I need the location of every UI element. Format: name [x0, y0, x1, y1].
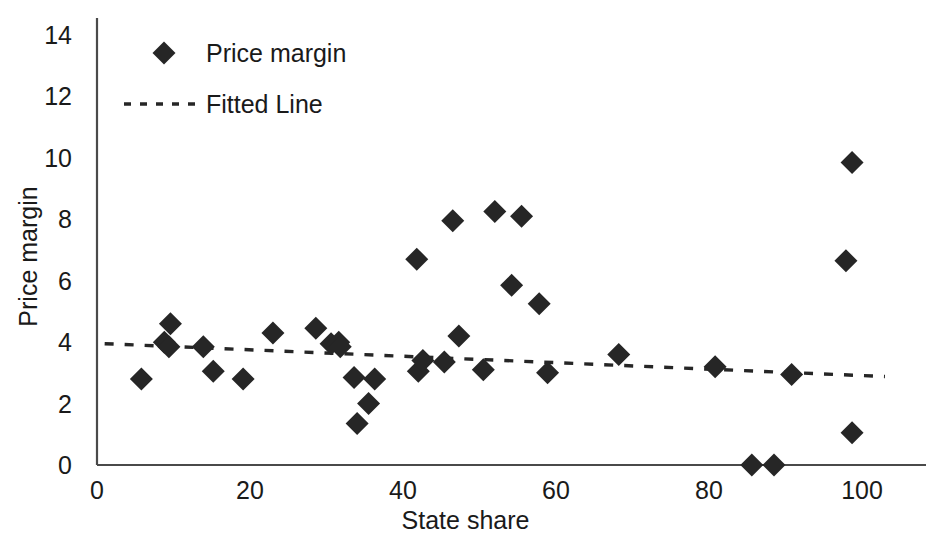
x-tick-label: 40: [389, 478, 417, 503]
data-point-marker: [841, 421, 864, 444]
legend-item-fitted-line: Fitted Line: [206, 92, 323, 117]
data-point-marker: [500, 274, 523, 297]
data-point-marker: [528, 292, 551, 315]
data-point-marker: [780, 363, 803, 386]
data-point-marker: [510, 205, 533, 228]
data-point-marker: [363, 368, 386, 391]
data-point-marker: [536, 361, 559, 384]
data-point-marker: [261, 321, 284, 344]
data-point-marker: [405, 248, 428, 271]
data-point-marker: [740, 454, 763, 477]
data-point-marker: [607, 343, 630, 366]
x-tick-label: 100: [841, 478, 883, 503]
data-point-marker: [483, 200, 506, 223]
legend-diamond-icon: [153, 42, 176, 65]
legend-item-price-margin: Price margin: [206, 41, 346, 66]
data-point-marker: [447, 325, 470, 348]
data-point-marker: [441, 209, 464, 232]
data-point-marker: [763, 454, 786, 477]
scatter-chart: 02468101214 020406080100 Price margin St…: [0, 0, 931, 544]
data-point-marker: [346, 412, 369, 435]
data-point-marker: [130, 368, 153, 391]
data-point-marker: [232, 368, 255, 391]
data-point-marker: [704, 355, 727, 378]
data-point-marker: [433, 351, 456, 374]
y-tick-label: 2: [10, 391, 72, 416]
x-axis-title: State share: [0, 508, 931, 533]
data-point-marker: [834, 249, 857, 272]
plot-area: [0, 0, 931, 544]
data-point-marker: [357, 392, 380, 415]
y-tick-label: 0: [10, 453, 72, 478]
data-point-marker: [841, 151, 864, 174]
legend-marks: [124, 42, 196, 105]
data-point-marker: [192, 335, 215, 358]
x-tick-label: 20: [236, 478, 264, 503]
y-tick-label: 14: [10, 23, 72, 48]
data-point-marker: [304, 317, 327, 340]
data-point-marker: [159, 312, 182, 335]
data-point-marker: [472, 358, 495, 381]
axis-lines: [97, 18, 926, 465]
x-tick-label: 0: [90, 478, 104, 503]
y-axis-title: Price margin: [16, 137, 41, 377]
x-tick-label: 80: [695, 478, 723, 503]
data-point-marker: [202, 360, 225, 383]
y-tick-label: 12: [10, 84, 72, 109]
x-tick-label: 60: [542, 478, 570, 503]
data-points: [130, 151, 864, 477]
data-point-marker: [343, 366, 366, 389]
